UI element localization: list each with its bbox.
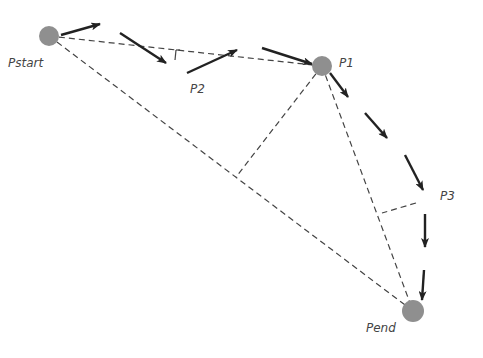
arrow-4-icon: [262, 48, 312, 64]
trajectory-diagram: PstartP1P2P3Pend: [0, 0, 483, 358]
label-pstart: Pstart: [8, 56, 44, 70]
dashed-lines: [49, 36, 416, 311]
pstart-to-p1-line: [49, 36, 322, 66]
p3-perpendicular-line: [382, 203, 416, 213]
p2-perp-mark-b-line: [175, 50, 176, 60]
arrow-9-icon: [422, 270, 424, 300]
label-p3: P3: [440, 189, 455, 203]
point-p1: [312, 56, 332, 76]
arrow-7-icon: [405, 155, 423, 190]
p1-to-pend-line: [322, 66, 413, 311]
arrow-6-icon: [365, 113, 387, 138]
point-pend: [402, 300, 424, 322]
trajectory-points: [39, 26, 424, 322]
label-pend: Pend: [366, 321, 396, 335]
label-p2: P2: [190, 82, 205, 96]
point-labels: PstartP1P2P3Pend: [8, 56, 455, 335]
p1-perpendicular-line: [236, 66, 322, 177]
movement-arrows: [61, 24, 425, 300]
arrow-1-icon: [61, 24, 100, 35]
point-pstart: [39, 26, 59, 46]
arrow-5-icon: [330, 73, 348, 97]
label-p1: P1: [339, 56, 354, 70]
pstart-to-pend-line: [49, 36, 413, 311]
